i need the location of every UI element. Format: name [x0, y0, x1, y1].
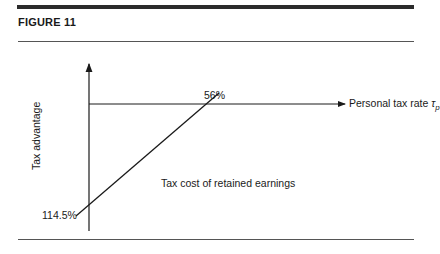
- x-axis-label: Personal tax rate τp: [349, 97, 440, 112]
- x-axis-label-text: Personal tax rate: [349, 97, 428, 109]
- tau-subscript: p: [435, 103, 439, 112]
- bottom-divider: [18, 239, 414, 240]
- line-label: Tax cost of retained earnings: [161, 177, 295, 189]
- intercept-label: 114.5%: [42, 209, 77, 221]
- y-axis-label: Tax advantage: [30, 102, 42, 170]
- crossing-label: 56%: [204, 89, 225, 101]
- tax-cost-line: [76, 93, 219, 216]
